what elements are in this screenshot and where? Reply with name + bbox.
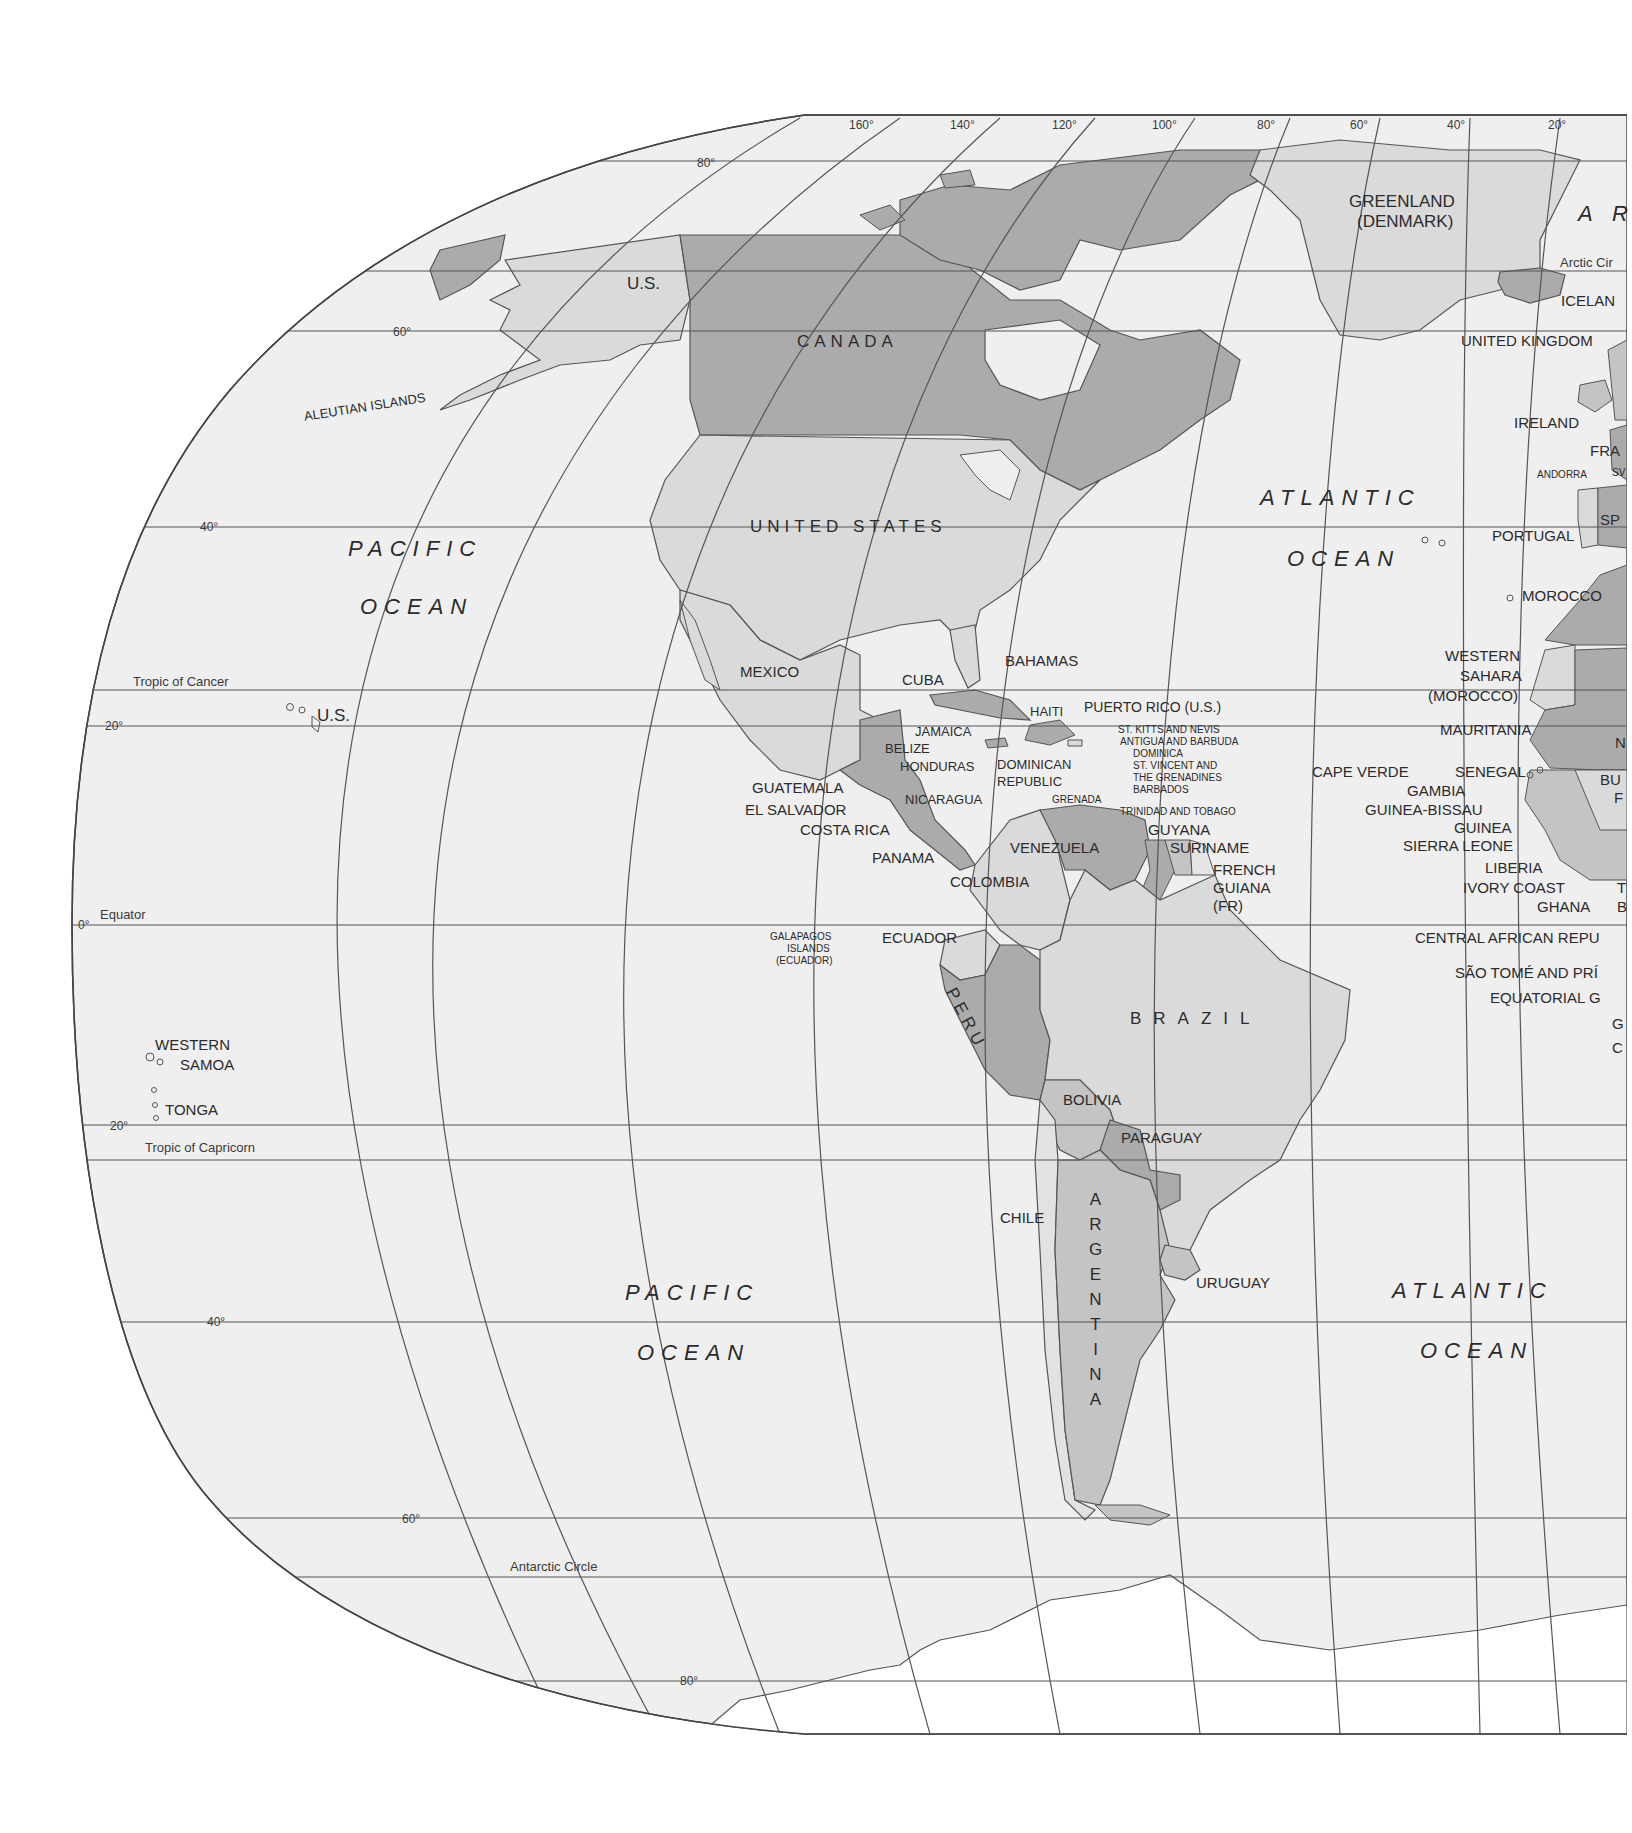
- label-ivory-coast: IVORY COAST: [1463, 880, 1565, 895]
- label-equatorial-guinea: EQUATORIAL G: [1490, 990, 1601, 1005]
- atlantic-south-label-1: ATLANTIC: [1392, 1280, 1553, 1302]
- atlantic-north-label-1: ATLANTIC: [1260, 487, 1421, 509]
- label-mexico: MEXICO: [740, 664, 799, 679]
- label-iceland: ICELAN: [1561, 293, 1615, 308]
- label-guatemala: GUATEMALA: [752, 780, 843, 795]
- label-liberia: LIBERIA: [1485, 860, 1543, 875]
- label-argentina: ARGENTINA: [1087, 1190, 1104, 1415]
- label-western-samoa-2: SAMOA: [180, 1057, 234, 1072]
- label-honduras: HONDURAS: [900, 760, 974, 773]
- lon-label-20: 20°: [1548, 119, 1566, 131]
- label-congo: C: [1612, 1040, 1623, 1055]
- lon-label-160: 160°: [849, 119, 874, 131]
- label-united-states: UNITED STATES: [750, 518, 947, 535]
- label-st-vincent-1: ST. VINCENT AND: [1133, 761, 1217, 771]
- label-dominican-2: REPUBLIC: [997, 775, 1062, 788]
- portugal-shape: [1578, 488, 1598, 548]
- lat-label-s80: 80°: [680, 1675, 698, 1687]
- label-french-guiana-3: (FR): [1213, 898, 1243, 913]
- equator-label: Equator: [100, 908, 146, 921]
- label-guinea-bissau: GUINEA-BISSAU: [1365, 802, 1483, 817]
- label-ghana: GHANA: [1537, 899, 1590, 914]
- label-colombia: COLOMBIA: [950, 874, 1029, 889]
- label-barbados: BARBADOS: [1133, 785, 1189, 795]
- label-western-sahara-2: SAHARA: [1460, 668, 1522, 683]
- label-cuba: CUBA: [902, 672, 944, 687]
- antarctic-circle-label: Antarctic Circle: [510, 1560, 597, 1573]
- label-st-vincent-2: THE GRENADINES: [1133, 773, 1222, 783]
- label-france: FRA: [1590, 443, 1620, 458]
- lat-label-s20: 20°: [110, 1120, 128, 1132]
- label-panama: PANAMA: [872, 850, 934, 865]
- lon-label-140: 140°: [950, 119, 975, 131]
- label-belize: BELIZE: [885, 742, 930, 755]
- label-hawaii-us: U.S.: [317, 707, 350, 724]
- label-greenland-2: (DENMARK): [1357, 213, 1453, 230]
- label-western-samoa-1: WESTERN: [155, 1037, 230, 1052]
- label-burkina: BU: [1600, 772, 1621, 787]
- lat-label-eq: 0°: [78, 919, 89, 931]
- tropic-capricorn-label: Tropic of Capricorn: [145, 1141, 255, 1154]
- lat-label-n20: 20°: [105, 720, 123, 732]
- lon-label-80: 80°: [1257, 119, 1275, 131]
- pacific-south-label-1: PACIFIC: [625, 1282, 759, 1304]
- label-el-salvador: EL SALVADOR: [745, 802, 846, 817]
- label-dominican-1: DOMINICAN: [997, 758, 1071, 771]
- label-venezuela: VENEZUELA: [1010, 840, 1099, 855]
- label-brazil: BRAZIL: [1130, 1010, 1262, 1027]
- label-tonga: TONGA: [165, 1102, 218, 1117]
- arctic-circle-label: Arctic Cir: [1560, 256, 1613, 269]
- label-spain: SP: [1600, 512, 1620, 527]
- pacific-north-label-1: PACIFIC: [348, 538, 482, 560]
- label-galapagos-2: ISLANDS: [787, 944, 830, 954]
- label-ireland: IRELAND: [1514, 415, 1579, 430]
- label-jamaica: JAMAICA: [915, 725, 971, 738]
- lat-label-s40: 40°: [207, 1316, 225, 1328]
- label-grenada: GRENADA: [1052, 795, 1101, 805]
- label-french-guiana-2: GUIANA: [1213, 880, 1271, 895]
- label-antigua: ANTIGUA AND BARBUDA: [1120, 737, 1238, 747]
- label-portugal: PORTUGAL: [1492, 528, 1574, 543]
- lat-label-n60: 60°: [393, 326, 411, 338]
- label-sao-tome: SÃO TOMÉ AND PRÍ: [1455, 965, 1598, 980]
- label-gambia: GAMBIA: [1407, 783, 1465, 798]
- label-nicaragua: NICARAGUA: [905, 793, 982, 806]
- label-trinidad: TRINIDAD AND TOBAGO: [1120, 807, 1236, 817]
- label-morocco: MOROCCO: [1522, 588, 1602, 603]
- label-galapagos-3: (ECUADOR): [776, 956, 833, 966]
- pacific-south-label-2: OCEAN: [637, 1342, 750, 1364]
- label-sierra-leone: SIERRA LEONE: [1403, 838, 1513, 853]
- label-paraguay: PARAGUAY: [1121, 1130, 1202, 1145]
- label-costa-rica: COSTA RICA: [800, 822, 890, 837]
- pacific-north-label-2: OCEAN: [360, 596, 473, 618]
- label-sw: SV: [1612, 468, 1625, 478]
- label-uruguay: URUGUAY: [1196, 1275, 1270, 1290]
- label-galapagos-1: GALAPAGOS: [770, 932, 832, 942]
- atlantic-south-label-2: OCEAN: [1420, 1340, 1533, 1362]
- label-togo: T: [1617, 880, 1626, 895]
- lon-label-40: 40°: [1447, 119, 1465, 131]
- lon-label-60: 60°: [1350, 119, 1368, 131]
- label-western-sahara-1: WESTERN: [1445, 648, 1520, 663]
- label-united-kingdom: UNITED KINGDOM: [1461, 333, 1593, 348]
- label-benin: B: [1617, 899, 1627, 914]
- label-french-guiana-1: FRENCH: [1213, 862, 1276, 877]
- arctic-partial-label: A R: [1578, 203, 1632, 225]
- label-haiti: HAITI: [1030, 705, 1063, 718]
- label-niger: N: [1615, 735, 1626, 750]
- label-dominica: DOMINICA: [1133, 749, 1183, 759]
- label-canada: CANADA: [797, 333, 898, 350]
- label-greenland-1: GREENLAND: [1349, 193, 1455, 210]
- lat-label-n80: 80°: [697, 157, 715, 169]
- label-puerto-rico: PUERTO RICO (U.S.): [1084, 700, 1221, 714]
- label-suriname: SURINAME: [1170, 840, 1249, 855]
- label-cape-verde: CAPE VERDE: [1312, 764, 1409, 779]
- tropic-cancer-label: Tropic of Cancer: [133, 675, 229, 688]
- lat-label-s60: 60°: [402, 1513, 420, 1525]
- label-mauritania: MAURITANIA: [1440, 722, 1531, 737]
- jamaica-shape: [985, 738, 1008, 748]
- atlantic-north-label-2: OCEAN: [1287, 548, 1400, 570]
- label-st-kitts: ST. KITTS AND NEVIS: [1118, 725, 1220, 735]
- label-guyana: GUYANA: [1148, 822, 1210, 837]
- label-chile: CHILE: [1000, 1210, 1044, 1225]
